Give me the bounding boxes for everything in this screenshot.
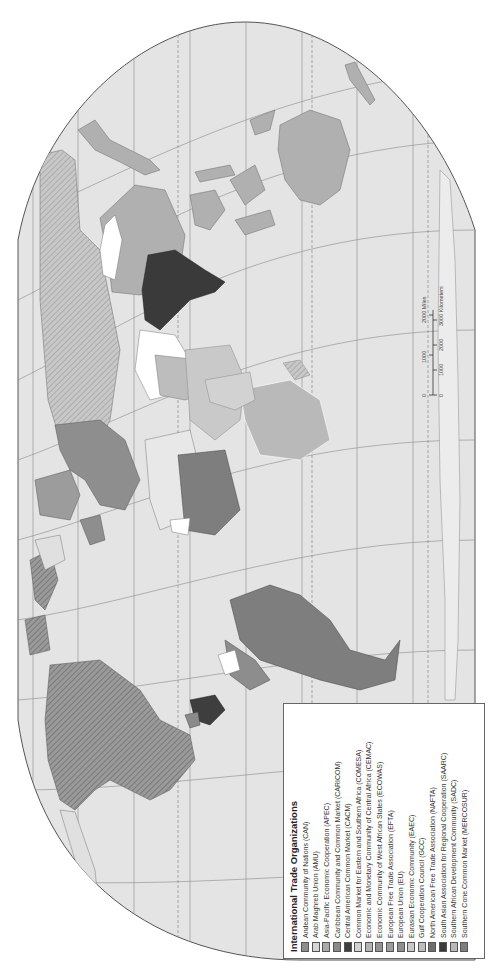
legend-swatch [450,942,458,952]
legend-swatch [312,942,320,952]
legend-title: International Trade Organizations [288,710,299,952]
legend-label: Southern African Development Community (… [450,780,457,938]
scale-km-0: 0 [438,394,444,397]
legend-swatch [354,942,362,952]
legend-swatch [375,942,383,952]
legend-swatch [428,942,436,952]
legend-item: Southern African Development Community (… [448,710,459,952]
legend-label: Asia-Pacific Economic Cooperation (APEC) [323,803,330,938]
legend-label: South Asian Association for Regional Coo… [440,753,447,938]
legend-swatch [344,942,352,952]
legend-label: Gulf Cooperation Council (GCC) [418,838,425,938]
legend-label: North American Free Trade Association (N… [429,787,436,938]
legend-item: Central American Common Market (CACM) [342,710,353,952]
legend-swatch [322,942,330,952]
legend-swatch [301,942,309,952]
legend-item: North American Free Trade Association (N… [427,710,438,952]
legend: International Trade Organizations Andean… [283,703,485,959]
legend-label: European Free Trade Association (EFTA) [387,810,394,938]
legend-swatch [365,942,373,952]
legend-item: European Union (EU) [395,710,406,952]
legend-item: Economic Community of West African State… [374,710,385,952]
legend-label: Economic and Monetary Community of Centr… [365,742,372,938]
legend-label: Southern Cone Common Market (MERCOSUR) [461,790,468,938]
legend-item: South Asian Association for Regional Coo… [438,710,449,952]
legend-item: Common Market for Eastern and Southern A… [353,710,364,952]
scale-miles-0: 0 [421,394,427,397]
legend-item: Andean Community of Nations (CAN) [300,710,311,952]
legend-item: Arab Maghreb Union (AMU) [311,710,322,952]
legend-swatch [397,942,405,952]
legend-swatch [460,942,468,952]
legend-label: Economic Community of West African State… [376,762,383,938]
legend-item: Caribbean Community and Common Market (C… [332,710,343,952]
legend-item: Eurasian Economic Community (EAEC) [406,710,417,952]
legend-swatch [386,942,394,952]
scale-bar: 0 1000 2000 Miles 0 1000 2000 3000 Kilom… [418,275,448,405]
legend-swatch [418,942,426,952]
legend-label: Caribbean Community and Common Market (C… [334,761,341,938]
scale-km-3000: 3000 Kilometers [438,286,444,326]
legend-swatch [333,942,341,952]
legend-label: Central American Common Market (CACM) [344,803,351,938]
legend-item: European Free Trade Association (EFTA) [385,710,396,952]
legend-label: Common Market for Eastern and Southern A… [355,750,362,938]
scale-km-1000: 1000 [438,364,444,376]
legend-label: Andean Community of Nations (CAN) [302,822,309,938]
legend-item: Asia-Pacific Economic Cooperation (APEC) [321,710,332,952]
legend-label: European Union (EU) [397,871,404,938]
scale-miles-2000: 2000 Miles [421,296,427,323]
legend-label: Arab Maghreb Union (AMU) [312,851,319,938]
legend-item: Gulf Cooperation Council (GCC) [417,710,428,952]
scale-km-2000: 2000 [438,339,444,351]
legend-item: Economic and Monetary Community of Centr… [364,710,375,952]
legend-swatch [439,942,447,952]
legend-item: Southern Cone Common Market (MERCOSUR) [459,710,470,952]
legend-items: Andean Community of Nations (CAN)Arab Ma… [300,710,470,952]
scale-miles-1000: 1000 [421,351,427,363]
legend-label: Eurasian Economic Community (EAEC) [408,815,415,938]
legend-swatch [407,942,415,952]
